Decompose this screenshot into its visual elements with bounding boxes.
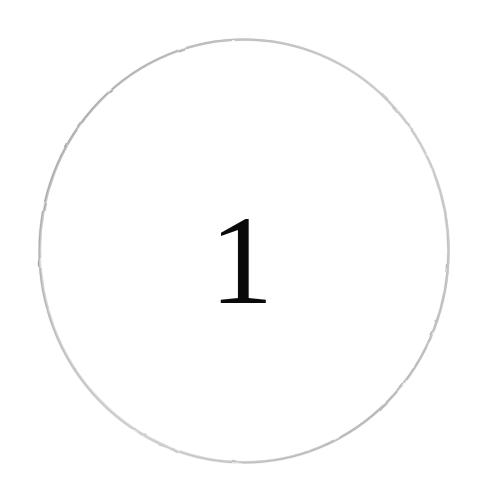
circle-number-label: 1	[0, 196, 483, 324]
page-canvas: 1	[0, 0, 483, 493]
